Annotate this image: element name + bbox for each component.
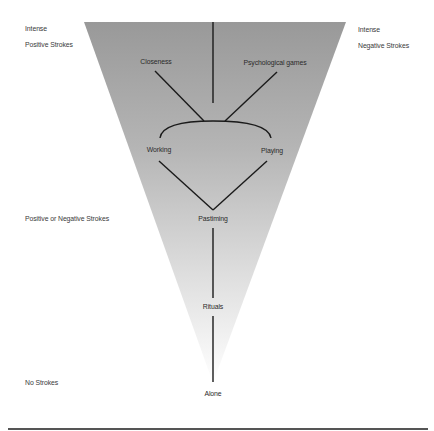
- scale-label-intense-negative-1: Intense: [358, 25, 380, 34]
- node-playing: Playing: [261, 146, 283, 155]
- node-pastiming: Pastiming: [198, 214, 227, 223]
- node-closeness: Closeness: [140, 57, 171, 66]
- strokes-intensity-diagram: Intense Positive Strokes Intense Negativ…: [0, 0, 434, 431]
- node-psychological-games: Psychological games: [244, 58, 307, 67]
- node-rituals: Rituals: [203, 302, 223, 311]
- node-alone: Alone: [204, 389, 221, 398]
- intensity-triangle: [84, 22, 346, 383]
- node-working: Working: [147, 145, 172, 154]
- scale-label-intense-positive-2: Positive Strokes: [25, 40, 73, 49]
- scale-label-positive-or-negative: Positive or Negative Strokes: [25, 214, 109, 223]
- scale-label-intense-negative-2: Negative Strokes: [358, 41, 409, 50]
- scale-label-no-strokes: No Strokes: [25, 378, 58, 387]
- scale-label-intense-positive-1: Intense: [25, 24, 47, 33]
- bottom-rule: [8, 428, 428, 430]
